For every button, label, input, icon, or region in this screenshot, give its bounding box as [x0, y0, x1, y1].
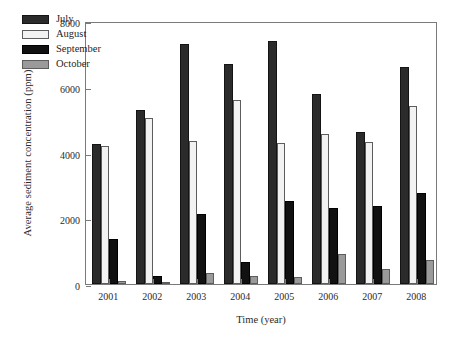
bar-september-2001 — [109, 239, 118, 284]
legend-item-september: September — [22, 42, 101, 56]
plot-area: 02000400060008000 — [85, 22, 437, 285]
bar-october-2006 — [338, 254, 347, 284]
bar-august-2004 — [233, 100, 242, 284]
bar-october-2004 — [250, 276, 259, 284]
x-axis-tick-mark — [285, 279, 286, 284]
legend-item-august: August — [22, 27, 101, 41]
bar-october-2007 — [382, 269, 391, 284]
x-axis-tick-mark — [197, 279, 198, 284]
y-axis-tick-label: 6000 — [40, 83, 80, 94]
legend-swatch-july — [22, 15, 49, 24]
x-axis-tick-mark — [109, 279, 110, 284]
bar-september-2002 — [153, 276, 162, 284]
x-axis-title: Time (year) — [85, 314, 437, 325]
bar-july-2008 — [400, 67, 409, 284]
bar-october-2002 — [162, 282, 171, 284]
legend-label-august: August — [56, 29, 86, 40]
bar-august-2007 — [365, 142, 374, 284]
bar-july-2003 — [180, 44, 189, 284]
legend-label-july: July — [56, 14, 74, 25]
x-axis-tick-mark — [153, 279, 154, 284]
bar-october-2001 — [118, 281, 127, 284]
bar-september-2008 — [417, 193, 426, 284]
bar-july-2002 — [136, 110, 145, 284]
x-axis-tick-mark — [417, 279, 418, 284]
bar-october-2003 — [206, 273, 215, 284]
bar-august-2003 — [189, 141, 198, 284]
chart-legend: JulyAugustSeptemberOctober — [18, 10, 105, 74]
bar-september-2007 — [373, 206, 382, 284]
chart-figure: Average sediment concentration (ppm) 020… — [0, 0, 455, 340]
bar-july-2006 — [312, 94, 321, 284]
bar-august-2008 — [409, 106, 418, 284]
legend-label-october: October — [56, 59, 90, 70]
y-axis-tick-mark — [86, 89, 91, 90]
bar-july-2004 — [224, 64, 233, 284]
y-axis-tick-label: 2000 — [40, 215, 80, 226]
bar-august-2006 — [321, 134, 330, 284]
legend-item-october: October — [22, 57, 101, 71]
bar-july-2001 — [92, 144, 101, 284]
bar-august-2005 — [277, 143, 286, 284]
x-axis-tick-mark — [329, 279, 330, 284]
y-axis-tick-mark — [86, 155, 91, 156]
bar-september-2004 — [241, 262, 250, 284]
legend-swatch-august — [22, 30, 49, 39]
y-axis-tick-label: 4000 — [40, 149, 80, 160]
y-axis-tick-label: 0 — [40, 281, 80, 292]
x-axis-tick-label-2008: 2008 — [386, 291, 446, 302]
bar-september-2005 — [285, 201, 294, 284]
bar-july-2007 — [356, 132, 365, 284]
bar-september-2006 — [329, 208, 338, 284]
bar-august-2001 — [101, 146, 110, 284]
legend-item-july: July — [22, 12, 101, 26]
y-axis-tick-mark — [86, 286, 91, 287]
bar-september-2003 — [197, 214, 206, 284]
legend-label-september: September — [56, 44, 101, 55]
bar-october-2005 — [294, 277, 303, 284]
legend-swatch-september — [22, 45, 49, 54]
bar-october-2008 — [426, 260, 435, 284]
legend-swatch-october — [22, 60, 49, 69]
x-axis-tick-mark — [241, 279, 242, 284]
x-axis-tick-mark — [373, 279, 374, 284]
bar-july-2005 — [268, 41, 277, 284]
y-axis-tick-mark — [86, 220, 91, 221]
bar-august-2002 — [145, 118, 154, 284]
